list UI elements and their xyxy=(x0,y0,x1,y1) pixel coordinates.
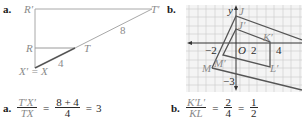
point-m-prime-label: M′ xyxy=(213,57,226,69)
x-tick-2: 2 xyxy=(251,44,257,56)
result-value: 3 xyxy=(96,102,102,114)
point-r-prime-label: R′ xyxy=(23,3,34,15)
ratio-fraction: T′X′ TX xyxy=(17,97,37,118)
formula-a: a. T′X′ TX = 8 + 4 4 = 3 xyxy=(3,97,102,118)
result-denominator: 2 xyxy=(251,108,257,118)
ratio-denominator: KL xyxy=(189,108,202,118)
origin-label: O xyxy=(238,44,246,56)
point-k-prime-label: K′ xyxy=(262,31,273,43)
point-l-prime-label: L′ xyxy=(269,62,279,74)
ratio-denominator: TX xyxy=(21,108,34,118)
equals-sign: = xyxy=(238,102,244,114)
point-t-label: T xyxy=(84,42,91,54)
length-8-label: 8 xyxy=(120,24,126,36)
value-fraction: 8 + 4 4 xyxy=(55,97,80,118)
result-fraction: 1 2 xyxy=(250,97,258,118)
value-fraction: 2 4 xyxy=(224,97,232,118)
formula-b-label: b. xyxy=(171,102,180,114)
value-denominator: 4 xyxy=(65,108,71,118)
point-m-label: M xyxy=(201,62,212,74)
value-denominator: 4 xyxy=(225,108,231,118)
equals-sign: = xyxy=(86,102,92,114)
formula-a-label: a. xyxy=(3,102,11,114)
equals-sign: = xyxy=(43,102,49,114)
equals-sign: = xyxy=(212,102,218,114)
length-4-label: 4 xyxy=(58,57,64,69)
point-j-prime-label: J′ xyxy=(238,19,246,31)
part-b-label: b. xyxy=(167,3,176,15)
formula-b: b. K′L′ KL = 2 4 = 1 2 xyxy=(171,97,260,118)
point-x-label: X′ = X xyxy=(18,65,49,77)
point-t-prime-label: T′ xyxy=(151,3,160,15)
point-r-label: R xyxy=(25,42,33,54)
x-tick-4: 4 xyxy=(276,44,282,56)
x-tick-neg2: −2 xyxy=(205,44,217,56)
y-tick-neg3: −3 xyxy=(223,75,235,87)
ratio-fraction: K′L′ KL xyxy=(186,97,206,118)
y-axis-label: y xyxy=(227,4,233,16)
part-a-label: a. xyxy=(3,3,12,15)
